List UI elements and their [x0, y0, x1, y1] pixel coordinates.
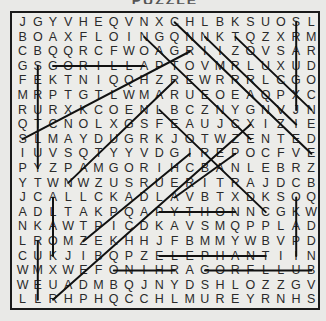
grid-cell[interactable]: S — [197, 278, 212, 293]
grid-cell[interactable]: A — [152, 88, 167, 103]
grid-cell[interactable]: N — [228, 205, 243, 220]
grid-cell[interactable]: S — [61, 146, 76, 161]
grid-cell[interactable]: L — [273, 219, 288, 234]
grid-cell[interactable]: D — [243, 190, 258, 205]
grid-cell[interactable]: Z — [273, 117, 288, 132]
grid-cell[interactable]: W — [45, 176, 60, 191]
grid-cell[interactable]: A — [167, 190, 182, 205]
grid-cell[interactable]: Z — [197, 103, 212, 118]
grid-cell[interactable]: N — [228, 161, 243, 176]
grid-cell[interactable]: R — [212, 292, 227, 307]
grid-cell[interactable]: N — [137, 30, 152, 45]
grid-cell[interactable]: U — [152, 176, 167, 191]
grid-cell[interactable]: P — [76, 292, 91, 307]
grid-cell[interactable]: G — [121, 117, 136, 132]
grid-cell[interactable]: V — [288, 146, 303, 161]
grid-cell[interactable]: O — [212, 205, 227, 220]
grid-cell[interactable]: W — [15, 278, 30, 293]
grid-cell[interactable]: N — [15, 219, 30, 234]
grid-cell[interactable]: Q — [61, 44, 76, 59]
grid-cell[interactable]: P — [273, 88, 288, 103]
grid-cell[interactable]: C — [15, 249, 30, 264]
grid-cell[interactable]: G — [121, 132, 136, 147]
grid-cell[interactable]: R — [167, 263, 182, 278]
grid-cell[interactable]: C — [182, 161, 197, 176]
grid-cell[interactable]: U — [30, 103, 45, 118]
grid-cell[interactable]: I — [288, 117, 303, 132]
grid-cell[interactable]: H — [137, 73, 152, 88]
grid-cell[interactable]: E — [121, 103, 136, 118]
grid-cell[interactable]: P — [228, 146, 243, 161]
grid-cell[interactable]: X — [288, 88, 303, 103]
grid-cell[interactable]: A — [45, 30, 60, 45]
grid-cell[interactable]: E — [228, 292, 243, 307]
grid-cell[interactable]: B — [197, 190, 212, 205]
grid-cell[interactable]: W — [121, 88, 136, 103]
grid-cell[interactable]: Z — [76, 234, 91, 249]
grid-cell[interactable]: E — [76, 263, 91, 278]
grid-cell[interactable]: O — [243, 44, 258, 59]
grid-cell[interactable]: T — [273, 132, 288, 147]
grid-cell[interactable]: Z — [137, 249, 152, 264]
grid-cell[interactable]: J — [61, 249, 76, 264]
grid-cell[interactable]: B — [30, 44, 45, 59]
grid-cell[interactable]: I — [288, 249, 303, 264]
grid-cell[interactable]: N — [121, 263, 136, 278]
grid-cell[interactable]: B — [167, 103, 182, 118]
grid-cell[interactable]: H — [121, 234, 136, 249]
grid-cell[interactable]: N — [304, 103, 319, 118]
grid-cell[interactable]: B — [197, 161, 212, 176]
grid-cell[interactable]: R — [182, 44, 197, 59]
grid-cell[interactable]: G — [167, 146, 182, 161]
grid-cell[interactable]: N — [243, 205, 258, 220]
grid-cell[interactable]: D — [137, 219, 152, 234]
grid-cell[interactable]: B — [258, 234, 273, 249]
grid-cell[interactable]: M — [15, 88, 30, 103]
grid-cell[interactable]: T — [76, 219, 91, 234]
grid-cell[interactable]: L — [106, 88, 121, 103]
grid-cell[interactable]: Z — [258, 278, 273, 293]
grid-cell[interactable]: N — [273, 292, 288, 307]
grid-cell[interactable]: Y — [106, 146, 121, 161]
grid-cell[interactable]: I — [197, 44, 212, 59]
grid-cell[interactable]: G — [288, 73, 303, 88]
grid-cell[interactable]: X — [61, 30, 76, 45]
grid-cell[interactable]: U — [106, 132, 121, 147]
grid-cell[interactable]: P — [15, 161, 30, 176]
grid-cell[interactable]: U — [258, 15, 273, 30]
grid-cell[interactable]: P — [243, 219, 258, 234]
grid-cell[interactable]: P — [152, 205, 167, 220]
grid-cell[interactable]: X — [61, 103, 76, 118]
grid-cell[interactable]: L — [15, 234, 30, 249]
grid-cell[interactable]: A — [61, 132, 76, 147]
grid-cell[interactable]: I — [91, 59, 106, 74]
grid-cell[interactable]: L — [30, 132, 45, 147]
grid-cell[interactable]: O — [106, 263, 121, 278]
grid-cell[interactable]: V — [45, 146, 60, 161]
grid-cell[interactable]: N — [137, 15, 152, 30]
grid-cell[interactable]: L — [152, 190, 167, 205]
grid-cell[interactable]: R — [76, 59, 91, 74]
grid-cell[interactable]: E — [243, 132, 258, 147]
grid-cell[interactable]: B — [212, 15, 227, 30]
grid-cell[interactable]: R — [288, 30, 303, 45]
grid-cell[interactable]: E — [30, 278, 45, 293]
grid-cell[interactable]: G — [76, 88, 91, 103]
grid-cell[interactable]: C — [258, 205, 273, 220]
grid-cell[interactable]: R — [45, 292, 60, 307]
grid-cell[interactable]: R — [228, 176, 243, 191]
grid-cell[interactable]: Q — [304, 190, 319, 205]
grid-cell[interactable]: K — [152, 219, 167, 234]
grid-cell[interactable]: K — [91, 205, 106, 220]
grid-cell[interactable]: A — [45, 190, 60, 205]
grid-cell[interactable]: O — [182, 59, 197, 74]
grid-cell[interactable]: H — [76, 15, 91, 30]
grid-cell[interactable]: X — [45, 263, 60, 278]
grid-cell[interactable]: Y — [167, 278, 182, 293]
grid-cell[interactable]: L — [121, 59, 136, 74]
grid-cell[interactable]: C — [167, 15, 182, 30]
grid-cell[interactable]: M — [137, 88, 152, 103]
grid-cell[interactable]: H — [152, 263, 167, 278]
grid-cell[interactable]: J — [288, 103, 303, 118]
grid-cell[interactable]: L — [106, 59, 121, 74]
